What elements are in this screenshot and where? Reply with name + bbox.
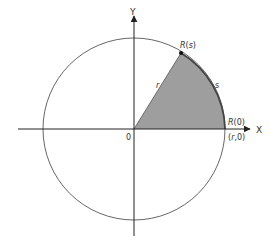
y-axis-label: Y bbox=[129, 7, 136, 17]
point-r-s bbox=[179, 51, 183, 55]
origin-label: 0 bbox=[126, 133, 131, 142]
point-r-0-coords: (r,0) bbox=[228, 133, 245, 142]
r-s-close: ) bbox=[193, 41, 196, 50]
arc-label: s bbox=[215, 81, 219, 90]
point-r-s-label: R(s) bbox=[180, 41, 196, 50]
coords-close: ) bbox=[242, 133, 245, 142]
x-axis-label: X bbox=[256, 125, 262, 135]
shaded-sector bbox=[134, 53, 225, 129]
r-0-close: ) bbox=[242, 118, 245, 127]
point-r-0-label: R(0) bbox=[228, 118, 245, 127]
circle-sector-diagram: Y X 0 R(s) R(0) (r,0) r s bbox=[0, 0, 271, 251]
coords-rest: ,0 bbox=[234, 133, 242, 142]
